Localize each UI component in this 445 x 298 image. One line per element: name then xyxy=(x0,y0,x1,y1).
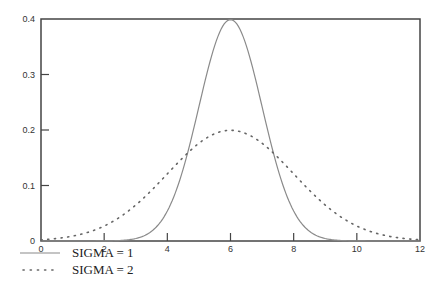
legend-item-sigma-2: SIGMA = 2 xyxy=(18,261,134,278)
y-tick-label: 0.4 xyxy=(22,14,35,24)
legend-item-sigma-1: SIGMA = 1 xyxy=(18,244,134,261)
y-tick-label: 0.3 xyxy=(22,70,35,80)
legend-label: SIGMA = 2 xyxy=(72,262,134,278)
series-sigma-2-line xyxy=(41,130,420,239)
y-tick-label: 0.2 xyxy=(22,125,35,135)
dotted-line-swatch-icon xyxy=(18,265,62,275)
solid-line-swatch-icon xyxy=(18,248,62,258)
legend: SIGMA = 1 SIGMA = 2 xyxy=(18,244,134,278)
x-tick-label: 6 xyxy=(228,244,233,254)
x-tick-label: 10 xyxy=(352,244,362,254)
x-tick-label: 8 xyxy=(291,244,296,254)
y-tick-label: 0.1 xyxy=(22,181,35,191)
x-tick-label: 12 xyxy=(415,244,425,254)
legend-label: SIGMA = 1 xyxy=(72,245,134,261)
plot-frame xyxy=(41,19,420,241)
y-axis: 00.10.20.30.4 xyxy=(22,14,49,246)
x-tick-label: 4 xyxy=(165,244,170,254)
series-sigma-1-line xyxy=(41,20,420,241)
